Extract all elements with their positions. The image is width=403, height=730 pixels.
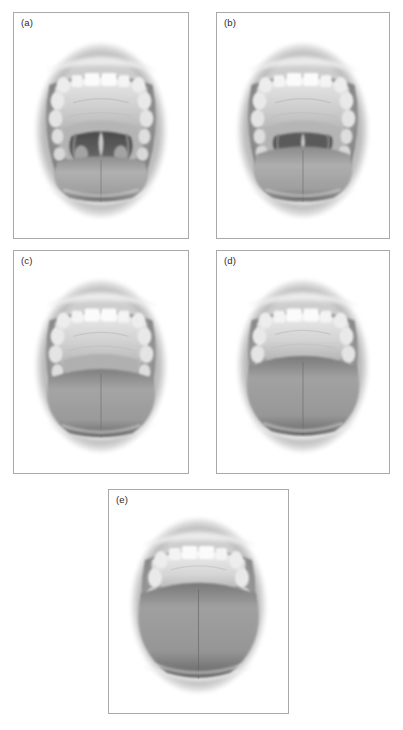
mouth-illustration-e: [109, 490, 288, 713]
mouth-illustration-a: [14, 13, 188, 238]
figure-sheet: (a): [0, 0, 403, 730]
figure-panel-e: (e): [108, 489, 289, 714]
mouth-illustration-c: [14, 251, 188, 473]
figure-panel-c: (c): [13, 250, 189, 474]
panel-label-a: (a): [21, 17, 33, 28]
mouth-illustration-b: [217, 13, 389, 238]
mouth-illustration-d: [217, 251, 389, 473]
figure-panel-a: (a): [13, 12, 189, 239]
panel-label-d: (d): [224, 255, 236, 266]
panel-label-e: (e): [116, 494, 128, 505]
panel-label-c: (c): [21, 255, 33, 266]
figure-panel-b: (b): [216, 12, 390, 239]
figure-panel-d: (d): [216, 250, 390, 474]
panel-label-b: (b): [224, 17, 236, 28]
